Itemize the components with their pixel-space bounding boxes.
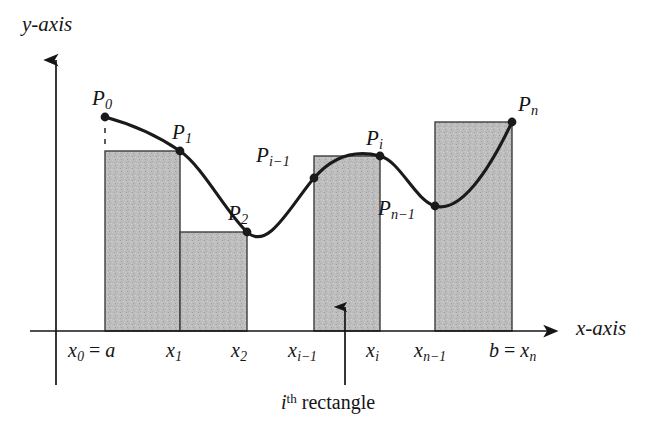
point-P0 — [101, 113, 110, 122]
ith-rectangle-caption: ith rectangle — [281, 392, 375, 412]
rectangles-group — [105, 122, 512, 331]
point-label-Pn-1: Pn−1 — [378, 198, 415, 222]
rectangle-0 — [105, 151, 180, 331]
x-axis-label: x-axis — [576, 318, 626, 339]
point-Pi — [376, 152, 385, 161]
rectangle-n — [435, 122, 512, 331]
point-Pn-1 — [431, 202, 440, 211]
tick-label-b-xn: b = xn — [489, 340, 536, 364]
figure-canvas — [0, 0, 664, 446]
point-Pi-1 — [310, 174, 319, 183]
tick-label-xn-1: xn−1 — [414, 340, 446, 364]
tick-label-xi-1: xi−1 — [288, 340, 317, 364]
rectangle-i — [314, 156, 380, 331]
tick-label-x0: x0 = a — [68, 340, 115, 364]
point-label-P1: P1 — [172, 122, 192, 146]
point-label-P0: P0 — [92, 88, 112, 112]
tick-label-x2: x2 — [231, 340, 247, 364]
rectangle-1 — [180, 232, 247, 331]
point-P2 — [243, 228, 252, 237]
point-label-Pi-1: Pi−1 — [256, 145, 290, 169]
riemann-sum-figure: y-axis x-axis P0 P1 P2 Pi−1 Pi Pn−1 Pn x… — [0, 0, 664, 446]
point-label-Pn: Pn — [518, 94, 538, 118]
tick-label-xi: xi — [366, 340, 379, 364]
point-label-P2: P2 — [228, 203, 248, 227]
point-label-Pi: Pi — [366, 128, 383, 152]
tick-label-x1: x1 — [166, 340, 182, 364]
point-P1 — [176, 147, 185, 156]
point-Pn — [508, 118, 517, 127]
y-axis-label: y-axis — [22, 14, 72, 35]
